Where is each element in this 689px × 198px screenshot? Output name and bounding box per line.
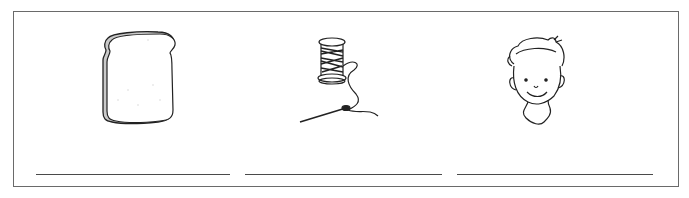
answer-line-1[interactable] [36,174,230,175]
boy-face-icon [500,34,574,128]
bread-slice-icon [98,30,180,126]
spool-needle-icon [298,36,388,126]
answer-line-2[interactable] [245,174,442,175]
answer-line-3[interactable] [457,174,653,175]
